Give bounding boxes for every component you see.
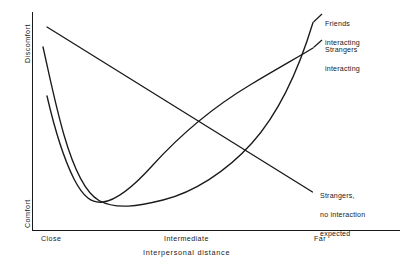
annotation-strangers-line-2: interacting bbox=[325, 65, 360, 74]
series-line-strangers-interacting bbox=[47, 48, 313, 202]
y-axis-label-discomfort: Discomfort bbox=[24, 24, 32, 63]
x-tick-label-intermediate: Intermediate bbox=[164, 235, 209, 243]
annotation-strangers-no-interaction: Strangers, no interaction expected bbox=[320, 183, 365, 249]
annotation-nointeract-line-1: Strangers, bbox=[320, 192, 365, 201]
annotation-nointeract-line-3: expected bbox=[320, 230, 365, 239]
annotation-friends-line-1: Friends bbox=[325, 20, 360, 29]
chart-container: Discomfort Comfort Close Intermediate Fa… bbox=[0, 0, 413, 268]
series-line-strangers-no-interaction bbox=[47, 27, 313, 192]
x-axis-title: Interpersonal distance bbox=[143, 248, 230, 257]
annotation-strangers-interacting: Strangers interacting bbox=[325, 37, 360, 84]
leader-line-strangers-icon bbox=[314, 40, 323, 48]
leader-line-friends-icon bbox=[314, 14, 323, 22]
annotation-nointeract-line-2: no interaction bbox=[320, 211, 365, 220]
annotation-strangers-line-1: Strangers bbox=[325, 46, 360, 55]
x-tick-label-close: Close bbox=[41, 235, 61, 243]
y-axis-label-comfort: Comfort bbox=[24, 199, 32, 228]
